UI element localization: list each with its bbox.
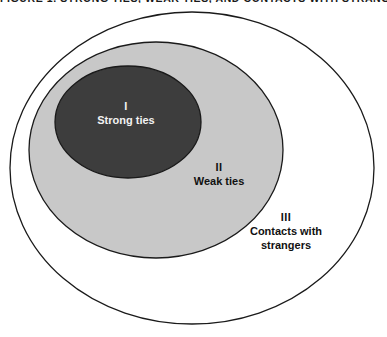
label-contacts-text-line1: Contacts with [226, 224, 346, 238]
label-strong-ties-text: Strong ties [66, 113, 186, 127]
label-strong-ties: I Strong ties [66, 99, 186, 127]
label-contacts-with-strangers: III Contacts with strangers [226, 210, 346, 252]
label-weak-ties: II Weak ties [159, 160, 279, 188]
label-weak-ties-numeral: II [159, 160, 279, 174]
label-contacts-text-line2: strangers [226, 238, 346, 252]
label-weak-ties-text: Weak ties [159, 174, 279, 188]
label-strong-ties-numeral: I [66, 99, 186, 113]
figure-container: FIGURE 1. STRONG TIES, WEAK TIES, AND CO… [0, 0, 387, 337]
label-contacts-numeral: III [226, 210, 346, 224]
